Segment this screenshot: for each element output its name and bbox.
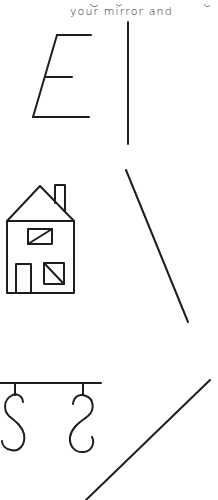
door [16,264,31,293]
diagonal-mirror-line-1 [126,170,188,322]
diagonal-mirror-line-2 [86,380,210,500]
worksheet-drawing [0,0,218,500]
letter-e-figure [33,35,91,117]
house-figure [7,185,74,293]
hooks-figure [0,383,101,452]
